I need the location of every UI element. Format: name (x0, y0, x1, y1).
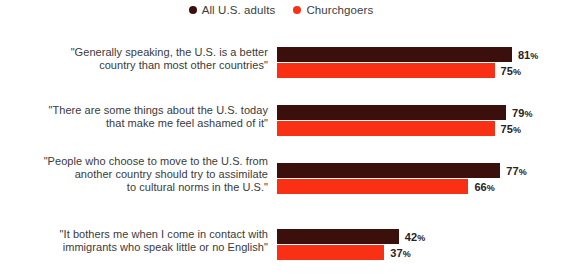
bar-churchgoers (277, 245, 384, 260)
category-label-line: immigrants who speak little or no Englis… (10, 241, 268, 254)
category-label-line: "It bothers me when I come in contact wi… (10, 228, 268, 241)
bar-group: "Generally speaking, the U.S. is a bette… (0, 44, 562, 88)
bar-churchgoers (277, 121, 495, 136)
category-label-line: another country should try to assimilate (10, 168, 268, 181)
category-label-line: to cultural norms in the U.S." (10, 181, 268, 194)
bar-value-label: 79% (512, 107, 532, 119)
bar-value-number: 75 (501, 65, 513, 77)
bar-all-us-adults (277, 163, 500, 178)
bar-group: "People who choose to move to the U.S. f… (0, 160, 562, 204)
bar-value-label: 75% (501, 65, 521, 77)
bar-value-label: 66% (474, 181, 494, 193)
bar-pair: 42% 37% (277, 226, 562, 270)
bar-group: "There are some things about the U.S. to… (0, 102, 562, 146)
bar-value-number: 75 (501, 123, 513, 135)
bar-chart: All U.S. adults Churchgoers "Generally s… (0, 0, 562, 275)
category-label-line: country than most other countries" (10, 59, 268, 72)
bar-value-label: 42% (405, 231, 425, 243)
bar-value-number: 66 (474, 181, 486, 193)
category-label: "It bothers me when I come in contact wi… (10, 228, 268, 254)
bar-value-number: 79 (512, 107, 524, 119)
bar-all-us-adults (277, 229, 399, 244)
chart-legend: All U.S. adults Churchgoers (0, 4, 562, 16)
bar-value-number: 42 (405, 231, 417, 243)
category-label-line: "People who choose to move to the U.S. f… (10, 155, 268, 168)
plot-area: "Generally speaking, the U.S. is a bette… (0, 32, 562, 275)
bar-value-number: 37 (390, 247, 402, 259)
category-label-line: "Generally speaking, the U.S. is a bette… (10, 46, 268, 59)
legend-dot-icon (293, 6, 301, 14)
bar-all-us-adults (277, 47, 512, 62)
bar-pair: 77% 66% (277, 160, 562, 204)
bar-pair: 79% 75% (277, 102, 562, 146)
legend-item-all-us-adults: All U.S. adults (189, 4, 276, 16)
bar-all-us-adults (277, 105, 506, 120)
bar-value-label: 81% (518, 49, 538, 61)
bar-value-number: 81 (518, 49, 530, 61)
category-label-line: that make me feel ashamed of it" (10, 117, 268, 130)
bar-value-number: 77 (506, 165, 518, 177)
bar-pair: 81% 75% (277, 44, 562, 88)
legend-label: Churchgoers (306, 4, 373, 16)
category-label-line: "There are some things about the U.S. to… (10, 104, 268, 117)
legend-label: All U.S. adults (202, 4, 276, 16)
legend-item-churchgoers: Churchgoers (293, 4, 373, 16)
category-label: "There are some things about the U.S. to… (10, 104, 268, 130)
category-label: "Generally speaking, the U.S. is a bette… (10, 46, 268, 72)
bar-group: "It bothers me when I come in contact wi… (0, 226, 562, 270)
bar-value-label: 75% (501, 123, 521, 135)
category-label: "People who choose to move to the U.S. f… (10, 155, 268, 195)
bar-value-label: 77% (506, 165, 526, 177)
legend-dot-icon (189, 6, 197, 14)
bar-churchgoers (277, 63, 495, 78)
bar-churchgoers (277, 179, 468, 194)
bar-value-label: 37% (390, 247, 410, 259)
